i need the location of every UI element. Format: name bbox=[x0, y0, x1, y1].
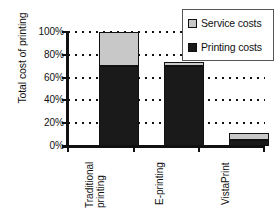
chart-legend: Service costs Printing costs bbox=[182, 9, 274, 61]
y-axis-tick-labels: 100% 80% 60% 40% 20% 0% bbox=[22, 0, 64, 213]
y-tick-label-20: 20% bbox=[26, 118, 64, 128]
bar-segment-service-costs bbox=[164, 62, 204, 67]
x-tick-mark-start bbox=[67, 146, 69, 152]
x-tick-mark-end bbox=[263, 146, 265, 152]
x-category-label-traditional-line1: Traditional bbox=[85, 162, 96, 208]
x-category-label-e-printing: E-printing bbox=[155, 162, 166, 205]
bar-segment-service-costs bbox=[229, 133, 269, 140]
bar-segment-service-costs bbox=[99, 32, 139, 66]
y-tick-label-0: 0% bbox=[26, 141, 64, 151]
legend-label-service-costs: Service costs bbox=[201, 18, 262, 29]
y-tick-label-100: 100% bbox=[26, 27, 64, 37]
y-tick-label-80: 80% bbox=[26, 50, 64, 60]
bar-segment-printing-costs bbox=[99, 66, 139, 146]
x-category-label-vistaprint: VistaPrint bbox=[221, 162, 232, 205]
bar-segment-printing-costs bbox=[164, 66, 204, 146]
x-category-label-traditional-line2: printing bbox=[96, 175, 107, 208]
y-tick-label-60: 60% bbox=[26, 73, 64, 83]
legend-swatch-printing-costs bbox=[188, 43, 197, 52]
x-tick-mark-2 bbox=[198, 146, 200, 152]
bar-segment-printing-costs bbox=[229, 140, 269, 146]
x-tick-mark-1 bbox=[133, 146, 135, 152]
bar-traditional-printing bbox=[99, 32, 139, 146]
y-tick-label-40: 40% bbox=[26, 95, 64, 105]
stacked-bar-chart: Total cost of printing 100% 80% 60% 40% … bbox=[0, 0, 276, 213]
legend-item-service-costs: Service costs bbox=[188, 16, 262, 30]
legend-swatch-service-costs bbox=[188, 19, 197, 28]
legend-item-printing-costs: Printing costs bbox=[188, 40, 262, 54]
legend-label-printing-costs: Printing costs bbox=[201, 42, 262, 53]
